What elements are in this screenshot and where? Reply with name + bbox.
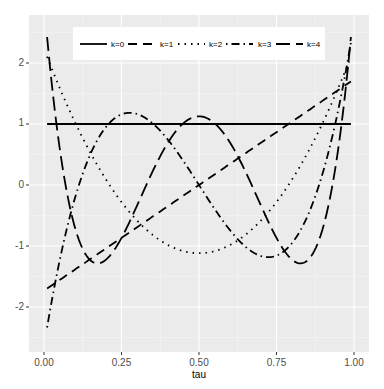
x-tick-label: 0.00 <box>34 357 54 368</box>
y-axis: 2 1 0 -1 -2 <box>15 57 29 312</box>
y-tick-label: 1 <box>18 117 24 128</box>
y-tick-label: 2 <box>18 57 24 68</box>
legend: k=0 k=1 k=2 k=3 k=4 <box>73 27 325 60</box>
legend-label-k2: k=2 <box>209 40 223 49</box>
x-axis-title: tau <box>192 369 206 380</box>
y-tick-label: 0 <box>18 179 24 190</box>
legend-label-k0: k=0 <box>111 40 125 49</box>
x-axis: 0.00 0.25 0.50 0.75 1.00 tau <box>34 352 364 380</box>
legend-label-k4: k=4 <box>307 40 321 49</box>
x-tick-label: 0.75 <box>267 357 287 368</box>
legend-label-k1: k=1 <box>160 40 174 49</box>
chart: k=0 k=1 k=2 k=3 k=4 2 1 0 -1 -2 0.00 <box>0 0 384 389</box>
y-tick-label: -2 <box>15 301 24 312</box>
x-tick-label: 0.25 <box>112 357 132 368</box>
x-tick-label: 1.00 <box>344 357 364 368</box>
y-tick-label: -1 <box>15 240 24 251</box>
legend-label-k3: k=3 <box>258 40 272 49</box>
x-tick-label: 0.50 <box>189 357 209 368</box>
